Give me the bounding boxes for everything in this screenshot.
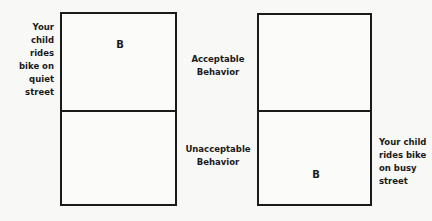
right-bottom-cell-mark: B bbox=[312, 169, 320, 180]
label-line: Your bbox=[4, 21, 54, 34]
unacceptable-behavior-label: Unacceptable Behavior bbox=[178, 143, 258, 169]
label-line: street bbox=[4, 86, 54, 99]
label-line: Behavior bbox=[178, 66, 258, 79]
left-box-divider bbox=[62, 110, 175, 112]
label-line: Acceptable bbox=[178, 53, 258, 66]
left-scenario-label: Your child rides bike on quiet street bbox=[4, 21, 54, 99]
acceptable-behavior-label: Acceptable Behavior bbox=[178, 53, 258, 79]
left-top-cell-mark: B bbox=[116, 39, 124, 50]
label-line: Unacceptable bbox=[178, 143, 258, 156]
right-quadrant-box: B bbox=[257, 13, 372, 206]
label-line: on busy bbox=[379, 162, 432, 175]
label-line: Behavior bbox=[178, 156, 258, 169]
right-box-divider bbox=[259, 110, 370, 112]
label-line: street bbox=[379, 175, 432, 188]
label-line: Your child bbox=[379, 136, 432, 149]
label-line: quiet bbox=[4, 73, 54, 86]
label-line: rides bike bbox=[379, 149, 432, 162]
label-line: bike on bbox=[4, 60, 54, 73]
right-scenario-label: Your child rides bike on busy street bbox=[379, 136, 432, 188]
left-quadrant-box: B bbox=[60, 12, 177, 206]
label-line: child bbox=[4, 34, 54, 47]
label-line: rides bbox=[4, 47, 54, 60]
